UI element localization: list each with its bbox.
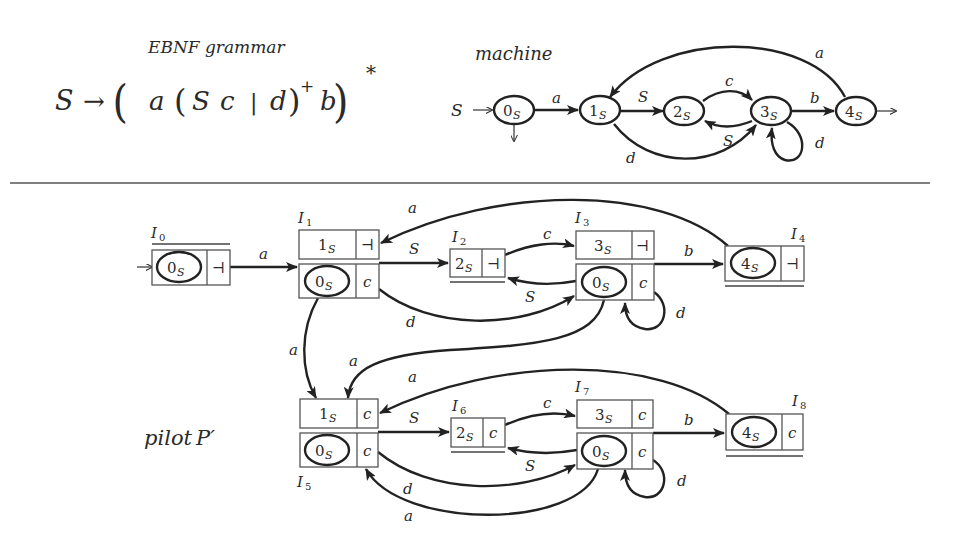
pilot-edge-label: c xyxy=(543,225,552,243)
svg-text:P′: P′ xyxy=(195,426,215,450)
pilot-title: pilot P′ xyxy=(144,426,215,450)
pilot-edge-label: a xyxy=(289,341,298,359)
machine-edge-label-c: c xyxy=(725,72,734,90)
grammar-terminal-c: c xyxy=(220,86,235,116)
svg-text:S: S xyxy=(325,280,333,293)
svg-text:0: 0 xyxy=(592,443,602,461)
grammar-nonterminal-S: S xyxy=(192,86,210,116)
machine-edge-2-3 xyxy=(703,91,752,101)
svg-text:4: 4 xyxy=(741,255,751,273)
svg-text:⊣: ⊣ xyxy=(212,259,225,277)
pilot-edge-I2-I3 xyxy=(505,244,574,255)
svg-text:1: 1 xyxy=(589,102,599,120)
svg-text:S: S xyxy=(329,412,337,425)
grammar-rule: S → ( a ( S c | d ) + b ) * xyxy=(55,61,376,128)
m-state-I1: I 1 1 S ⊣ 0 S c xyxy=(297,209,379,298)
pilot-edge-label: d xyxy=(406,313,416,331)
svg-text:S: S xyxy=(599,109,607,122)
pilot-edge-I7-I6 xyxy=(508,448,577,453)
svg-text:I: I xyxy=(574,378,582,396)
svg-text:0: 0 xyxy=(159,232,165,243)
machine-edge-label-a: a xyxy=(552,89,561,107)
svg-text:3: 3 xyxy=(760,103,770,121)
machine-state-3S: 3 S xyxy=(751,97,791,125)
m-state-I3: I 3 3 S ⊣ 0 S c xyxy=(574,209,654,300)
grammar-plus: + xyxy=(300,76,314,96)
svg-text:4: 4 xyxy=(799,233,805,244)
svg-text:6: 6 xyxy=(460,405,466,416)
machine-state-2S: 2 S xyxy=(664,97,704,125)
pilot-edge-label: a xyxy=(259,245,268,263)
svg-text:S: S xyxy=(602,450,610,463)
machine-state-0S: 0 S xyxy=(494,96,534,124)
pilot-edge-I4-I1 xyxy=(381,200,728,246)
pilot-edge-label: a xyxy=(408,368,417,386)
svg-text:S: S xyxy=(328,243,336,256)
svg-text:⊣: ⊣ xyxy=(786,255,799,273)
svg-text:S: S xyxy=(751,262,759,275)
pilot-edge-label: d xyxy=(676,304,686,322)
m-state-I8: I 8 4 S c xyxy=(726,392,806,456)
pilot-edge-I3-I2 xyxy=(508,278,576,284)
svg-text:2: 2 xyxy=(673,103,683,121)
svg-text:pilot: pilot xyxy=(144,426,193,450)
pilot-edge-I1-I5 xyxy=(304,298,318,398)
svg-text:⊣: ⊣ xyxy=(487,255,500,273)
svg-text:I: I xyxy=(790,225,798,243)
svg-text:7: 7 xyxy=(583,386,589,397)
machine-edge-label-d: d xyxy=(626,149,636,167)
svg-text:⊣: ⊣ xyxy=(361,236,374,254)
svg-text:S: S xyxy=(325,449,333,462)
svg-text:2: 2 xyxy=(456,424,466,442)
grammar-inner-paren-close: ) xyxy=(288,82,300,120)
grammar-terminal-d: d xyxy=(270,86,287,116)
svg-text:4: 4 xyxy=(845,103,855,121)
m-state-I0: I 0 0 S ⊣ xyxy=(150,224,230,285)
pilot-edge-label: b xyxy=(684,411,694,429)
machine-edge-label-S: S xyxy=(638,88,648,106)
svg-text:I: I xyxy=(150,224,158,242)
svg-text:2: 2 xyxy=(455,255,465,273)
svg-text:S: S xyxy=(770,110,778,123)
pilot-edge-label: a xyxy=(408,199,417,217)
pilot-edge-label: b xyxy=(684,242,694,260)
svg-text:3: 3 xyxy=(595,406,605,424)
machine-state-1S: 1 S xyxy=(580,96,620,124)
diagram-canvas: EBNF grammar S → ( a ( S c | d ) + b ) *… xyxy=(0,0,957,543)
pilot-edge-label: a xyxy=(349,352,358,370)
pilot-edge-label: d xyxy=(677,472,687,490)
svg-text:S: S xyxy=(513,109,521,122)
machine-edge-label-a2: a xyxy=(815,44,824,62)
svg-text:c: c xyxy=(363,405,372,423)
grammar-alternation: | xyxy=(250,90,257,116)
pilot-edge-label: S xyxy=(525,457,535,475)
svg-text:c: c xyxy=(638,443,647,461)
svg-text:1: 1 xyxy=(319,405,329,423)
pilot-edge-label: S xyxy=(409,409,419,427)
m-state-I4: I 4 4 S ⊣ xyxy=(725,225,805,286)
grammar-star: * xyxy=(366,61,376,85)
svg-text:S: S xyxy=(683,110,691,123)
pilot-edge-I6-I7 xyxy=(505,414,575,425)
svg-text:0: 0 xyxy=(167,259,177,277)
svg-text:c: c xyxy=(489,424,498,442)
grammar-arrow: → xyxy=(83,86,105,116)
svg-text:c: c xyxy=(363,442,372,460)
svg-text:1: 1 xyxy=(318,236,328,254)
machine-title: machine xyxy=(475,43,552,64)
svg-text:0: 0 xyxy=(315,442,325,460)
svg-text:S: S xyxy=(855,110,863,123)
svg-text:c: c xyxy=(639,274,648,292)
svg-text:I: I xyxy=(296,473,304,491)
ebnf-grammar-section: EBNF grammar S → ( a ( S c | d ) + b ) * xyxy=(55,37,376,128)
machine-state-4S: 4 S xyxy=(836,97,876,125)
grammar-paren-close: ) xyxy=(333,76,348,128)
svg-text:S: S xyxy=(604,244,612,257)
svg-text:S: S xyxy=(602,281,610,294)
svg-text:I: I xyxy=(451,228,459,246)
grammar-title: EBNF grammar xyxy=(147,37,285,57)
grammar-inner-paren-open: ( xyxy=(174,82,186,120)
svg-text:S: S xyxy=(752,431,760,444)
svg-text:I: I xyxy=(297,209,305,227)
svg-text:I: I xyxy=(574,209,582,227)
